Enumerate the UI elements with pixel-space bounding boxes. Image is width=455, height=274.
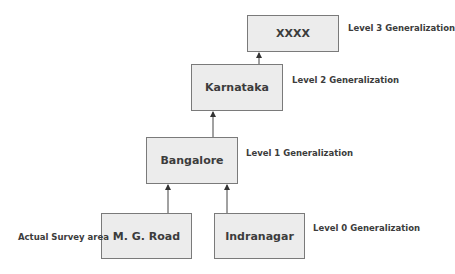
node-bangalore: Bangalore xyxy=(146,137,238,184)
node-karnataka: Karnataka xyxy=(191,64,283,111)
actual-survey-area-label: Actual Survey area xyxy=(18,232,109,242)
node-label: Bangalore xyxy=(160,154,223,167)
level-0-label: Level 0 Generalization xyxy=(313,223,420,233)
node-xxxx: XXXX xyxy=(247,15,339,52)
node-label: M. G. Road xyxy=(113,230,180,243)
node-label: Karnataka xyxy=(205,81,269,94)
level-2-label: Level 2 Generalization xyxy=(292,75,399,85)
node-mg-road: M. G. Road xyxy=(101,213,192,259)
node-label: XXXX xyxy=(276,27,310,40)
node-indranagar: Indranagar xyxy=(214,213,305,259)
level-3-label: Level 3 Generalization xyxy=(348,23,455,33)
node-label: Indranagar xyxy=(225,230,294,243)
level-1-label: Level 1 Generalization xyxy=(246,148,353,158)
